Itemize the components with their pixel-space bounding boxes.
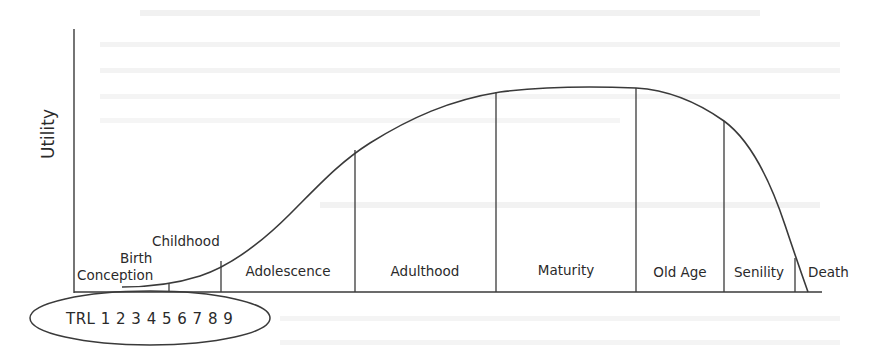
stage-label-adolescence: Adolescence [246,263,331,279]
stage-label-old-age: Old Age [653,264,706,280]
stage-label-maturity: Maturity [538,262,594,278]
life-cycle-diagram: Utility Conception Birth Childhood Adole… [0,0,882,360]
stage-label-senility: Senility [734,264,784,280]
y-axis-label: Utility [38,109,58,159]
stage-label-adulthood: Adulthood [391,263,460,279]
stage-label-conception: Conception [77,267,153,283]
stage-label-childhood: Childhood [152,233,220,249]
stage-label-death: Death [808,264,849,280]
stage-label-birth: Birth [120,250,152,266]
utility-curve [122,87,808,292]
trl-scale-label: TRL 1 2 3 4 5 6 7 8 9 [65,310,233,328]
